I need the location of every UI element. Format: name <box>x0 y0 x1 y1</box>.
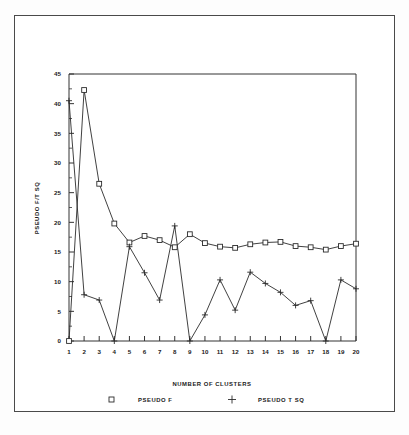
data-point-marker <box>111 338 117 344</box>
data-point-marker <box>172 245 177 250</box>
data-point-marker <box>67 339 72 344</box>
data-point-marker <box>97 181 102 186</box>
figure-outer-frame: 051015202530354045 123456789101112131415… <box>14 15 395 412</box>
y-axis-title: PSEUDO F/T SQ <box>34 182 40 235</box>
data-point-marker <box>353 286 359 292</box>
series-markers-pseudo-f <box>67 88 359 344</box>
data-point-marker <box>203 241 208 246</box>
data-point-marker <box>96 297 102 303</box>
series-line-pseudo-f <box>69 90 356 341</box>
x-tick-label: 7 <box>158 348 162 355</box>
data-point-marker <box>323 247 328 252</box>
x-tick-label: 10 <box>202 348 209 355</box>
series-markers-pseudo-t-sq <box>66 98 359 344</box>
x-tick-label: 5 <box>128 348 132 355</box>
data-point-marker <box>323 338 329 344</box>
data-point-marker <box>202 312 208 318</box>
data-point-marker <box>308 245 313 250</box>
y-tick-label: 35 <box>54 130 61 137</box>
data-point-marker <box>187 232 192 237</box>
data-point-marker <box>263 240 268 245</box>
data-point-marker <box>218 244 223 249</box>
x-tick-label: 3 <box>97 348 101 355</box>
data-point-marker <box>66 98 72 104</box>
data-point-marker <box>82 88 87 93</box>
x-tick-label: 4 <box>113 348 117 355</box>
x-tick-label: 20 <box>353 348 360 355</box>
legend-square-marker-icon <box>109 397 114 402</box>
x-tick-label: 16 <box>292 348 299 355</box>
x-tick-label: 6 <box>143 348 147 355</box>
chart-legend: PSEUDO F PSEUDO T SQ <box>109 396 304 404</box>
y-tick-label: 5 <box>58 308 62 315</box>
x-tick-label: 11 <box>217 348 224 355</box>
data-point-marker <box>338 244 343 249</box>
x-tick-label: 19 <box>337 348 344 355</box>
x-tick-label: 9 <box>188 348 192 355</box>
data-point-marker <box>112 221 117 226</box>
x-tick-label: 2 <box>82 348 86 355</box>
x-axis-tick-labels: 1234567891011121314151617181920 <box>67 348 360 355</box>
legend-plus-marker-icon <box>228 396 236 404</box>
y-tick-label: 40 <box>54 100 61 107</box>
y-tick-label: 45 <box>54 70 61 77</box>
x-tick-label: 1 <box>67 348 71 355</box>
data-point-marker <box>354 241 359 246</box>
chart-canvas: 051015202530354045 123456789101112131415… <box>15 16 396 413</box>
legend-label-pseudo-t-sq: PSEUDO T SQ <box>258 397 304 403</box>
y-tick-label: 15 <box>54 248 61 255</box>
y-axis-tick-labels: 051015202530354045 <box>54 70 61 344</box>
data-point-marker <box>308 298 314 304</box>
data-point-marker <box>248 242 253 247</box>
legend-label-pseudo-f: PSEUDO F <box>138 397 173 403</box>
data-point-marker <box>81 292 87 298</box>
x-tick-label: 14 <box>262 348 269 355</box>
x-tick-label: 13 <box>247 348 254 355</box>
y-tick-label: 10 <box>54 278 61 285</box>
data-point-marker <box>172 223 178 229</box>
data-point-marker <box>142 234 147 239</box>
x-axis-ticks <box>69 336 356 341</box>
pseudo-f-tsq-line-chart: 051015202530354045 123456789101112131415… <box>15 16 396 413</box>
x-tick-label: 17 <box>307 348 314 355</box>
x-tick-label: 18 <box>322 348 329 355</box>
data-point-marker <box>157 238 162 243</box>
y-tick-label: 30 <box>54 159 61 166</box>
x-axis-title: NUMBER OF CLUSTERS <box>173 381 252 387</box>
x-tick-label: 12 <box>232 348 239 355</box>
page-background: 051015202530354045 123456789101112131415… <box>0 0 409 435</box>
data-point-marker <box>142 270 148 276</box>
data-point-marker <box>338 277 344 283</box>
data-point-marker <box>278 240 283 245</box>
axis-titles: NUMBER OF CLUSTERS PSEUDO F/T SQ <box>34 182 251 387</box>
data-series-group <box>66 88 359 344</box>
data-point-marker <box>233 245 238 250</box>
y-tick-label: 0 <box>58 337 62 344</box>
data-point-marker <box>217 277 223 283</box>
data-point-marker <box>187 338 193 344</box>
y-tick-label: 20 <box>54 219 61 226</box>
x-tick-label: 15 <box>277 348 284 355</box>
data-point-marker <box>232 307 238 313</box>
data-point-marker <box>157 297 163 303</box>
x-tick-label: 8 <box>173 348 177 355</box>
data-point-marker <box>293 244 298 249</box>
y-tick-label: 25 <box>54 189 61 196</box>
